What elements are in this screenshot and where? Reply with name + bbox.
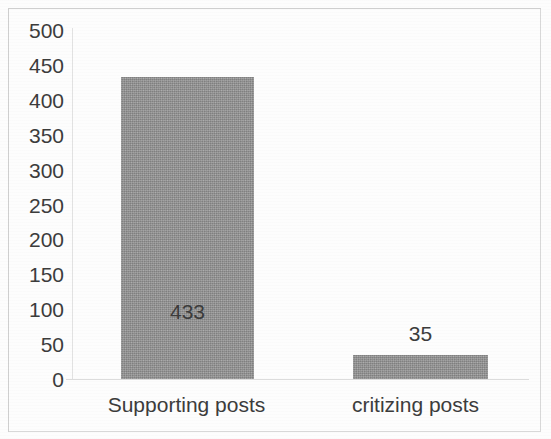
bar-value-supporting-posts: 433 <box>121 301 254 322</box>
y-tick-label-150: 150 <box>8 264 64 285</box>
y-tick-label-350: 350 <box>8 125 64 146</box>
bar-critizing-posts[interactable] <box>353 355 488 379</box>
bar-supporting-posts[interactable] <box>121 77 254 379</box>
y-tick-label-100: 100 <box>8 299 64 320</box>
x-axis-baseline <box>66 379 529 380</box>
plot-area: 433 35 <box>72 30 530 379</box>
category-label-supporting-posts: Supporting posts <box>72 392 301 422</box>
category-label-critizing-posts: critizing posts <box>301 392 530 422</box>
y-tick-label-200: 200 <box>8 229 64 250</box>
y-tick-label-500: 500 <box>8 20 64 41</box>
y-tick-label-50: 50 <box>8 334 64 355</box>
y-tick-label-450: 450 <box>8 55 64 76</box>
y-tick-label-400: 400 <box>8 90 64 111</box>
x-axis-category-labels: Supporting posts critizing posts <box>72 392 530 422</box>
bar-chart-figure: 500 450 400 350 300 250 200 150 100 50 0… <box>0 0 551 439</box>
y-axis-tick-labels: 500 450 400 350 300 250 200 150 100 50 0 <box>0 0 64 439</box>
bar-value-critizing-posts: 35 <box>353 323 488 344</box>
y-tick-label-0: 0 <box>8 369 64 390</box>
y-tick-label-250: 250 <box>8 195 64 216</box>
y-tick-label-300: 300 <box>8 160 64 181</box>
